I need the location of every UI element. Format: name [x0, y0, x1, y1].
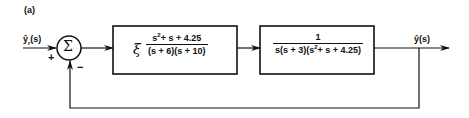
minus-sign: − — [77, 61, 83, 73]
plant-denominator: s(s + 3)(s2+ s + 4.25) — [273, 43, 363, 55]
input-label: ŷr(s) — [23, 34, 41, 46]
feedback-path — [70, 48, 419, 108]
output-label: ŷ(s) — [414, 34, 430, 44]
panel-label: (a) — [24, 5, 35, 15]
gain-symbol: ξ — [133, 41, 141, 57]
block-diagram-lines — [0, 0, 469, 118]
controller-transfer-function: s2+ s + 4.25 (s + 6)(s + 10) — [146, 33, 208, 56]
controller-numerator: s2+ s + 4.25 — [150, 33, 203, 44]
controller-denominator: (s + 6)(s + 10) — [146, 44, 208, 56]
plant-numerator: 1 — [313, 32, 322, 43]
plus-sign: + — [48, 51, 54, 63]
sigma-icon: Σ — [63, 38, 73, 54]
plant-transfer-function: 1 s(s + 3)(s2+ s + 4.25) — [272, 32, 364, 55]
